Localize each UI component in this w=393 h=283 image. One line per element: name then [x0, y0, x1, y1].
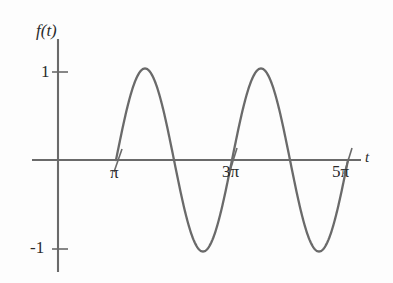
sine-wave-figure: f(t) t 1 -1 π 3π 5π — [0, 0, 393, 283]
plot-canvas — [0, 0, 393, 283]
y-axis-label: f(t) — [36, 22, 57, 39]
y-tick-label-positive-one: 1 — [41, 63, 50, 80]
x-axis-label: t — [365, 150, 369, 165]
x-tick-label-3pi: 3π — [222, 163, 239, 180]
x-tick-label-pi: π — [110, 164, 119, 181]
y-tick-label-negative-one: -1 — [30, 239, 44, 256]
x-tick-label-5pi: 5π — [332, 163, 349, 180]
